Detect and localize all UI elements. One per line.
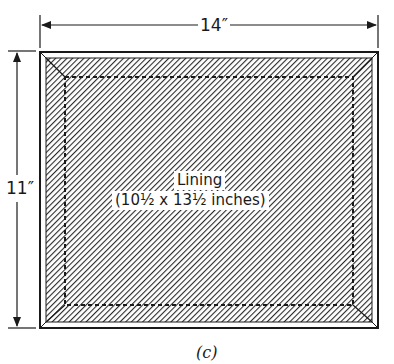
lining-size-label: (10½ x 13½ inches) xyxy=(112,191,269,210)
lining-fabric xyxy=(40,52,378,328)
lining-title: Lining xyxy=(177,171,222,189)
width-label: 14″ xyxy=(198,16,230,34)
height-label: 11″ xyxy=(6,179,34,197)
lining-label: Lining xyxy=(174,171,225,190)
figure-caption: (c) xyxy=(196,344,217,362)
lining-size: (10½ x 13½ inches) xyxy=(115,191,266,209)
